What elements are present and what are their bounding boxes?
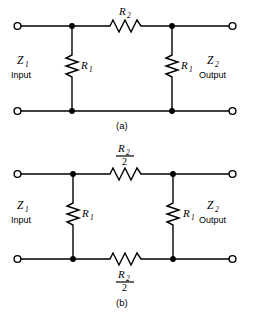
shunt-resistor-left-a-label-subscript: 1 — [89, 65, 93, 74]
node-dot-bottom-right-a — [169, 108, 175, 114]
input-impedance-symbol-b: Z — [17, 199, 24, 211]
shunt-resistor-right-a-label: R — [180, 59, 188, 71]
shunt-resistor-right-a-symbol — [166, 55, 178, 77]
panel-a: R 2 R 1 R 1 Z 1 Input Z 2 Output (a) — [11, 5, 236, 131]
terminal-input-top-b[interactable] — [14, 171, 21, 178]
series-resistor-top-b-denominator: 2 — [122, 156, 127, 167]
node-dot-top-left-b — [70, 171, 76, 177]
shunt-resistor-right-b-label-subscript: 1 — [191, 213, 195, 222]
series-resistor-top-a-label-subscript: 2 — [127, 11, 131, 20]
input-impedance-subscript-a: 1 — [25, 60, 29, 69]
output-impedance-subscript-a: 2 — [215, 60, 219, 69]
input-role-label-a: Input — [11, 70, 32, 80]
series-resistor-top-b-symbol — [110, 168, 141, 180]
input-impedance-symbol-a: Z — [17, 54, 24, 66]
panel-b: R 2 2 R 2 2 R 1 R 1 Z 1 Input Z — [11, 142, 236, 308]
terminal-output-top-a[interactable] — [229, 23, 236, 30]
output-impedance-subscript-b: 2 — [215, 205, 219, 214]
shunt-resistor-left-b-label: R — [81, 207, 89, 219]
series-resistor-top-a-symbol — [110, 20, 141, 32]
node-dot-bottom-left-b — [70, 256, 76, 262]
terminal-input-bottom-b[interactable] — [14, 256, 21, 263]
shunt-resistor-right-a-label-subscript: 1 — [189, 65, 193, 74]
panel-caption-b: (b) — [116, 297, 128, 308]
series-resistor-bottom-b-denominator: 2 — [122, 282, 127, 293]
shunt-resistor-right-b-label: R — [182, 207, 190, 219]
series-resistor-bottom-b-symbol — [110, 253, 141, 265]
circuit-diagram-canvas: R 2 R 1 R 1 Z 1 Input Z 2 Output (a) — [0, 0, 258, 318]
node-dot-top-left-a — [69, 23, 75, 29]
series-resistor-top-b-label-fraction: R 2 2 — [116, 142, 134, 167]
node-dot-bottom-right-b — [170, 256, 176, 262]
output-role-label-a: Output — [199, 70, 227, 80]
panel-caption-a: (a) — [116, 120, 128, 131]
terminal-output-bottom-a[interactable] — [229, 108, 236, 115]
shunt-resistor-right-b-symbol — [167, 203, 179, 225]
series-resistor-bottom-b-numerator-symbol: R — [117, 268, 125, 280]
shunt-resistor-left-a-symbol — [66, 55, 78, 77]
node-dot-top-right-a — [169, 23, 175, 29]
shunt-resistor-left-a-label: R — [80, 59, 88, 71]
terminal-output-bottom-b[interactable] — [229, 256, 236, 263]
output-role-label-b: Output — [199, 215, 227, 225]
output-impedance-symbol-b: Z — [207, 199, 214, 211]
series-resistor-bottom-b-label-fraction: R 2 2 — [116, 268, 134, 293]
shunt-resistor-left-b-symbol — [67, 203, 79, 225]
series-resistor-top-b-numerator-symbol: R — [117, 142, 125, 154]
input-impedance-subscript-b: 1 — [25, 205, 29, 214]
series-resistor-top-a-label: R — [118, 5, 126, 17]
terminal-output-top-b[interactable] — [229, 171, 236, 178]
input-role-label-b: Input — [11, 215, 32, 225]
terminal-input-bottom-a[interactable] — [14, 108, 21, 115]
node-dot-bottom-left-a — [69, 108, 75, 114]
output-impedance-symbol-a: Z — [207, 54, 214, 66]
terminal-input-top-a[interactable] — [14, 23, 21, 30]
circuit-figure: R 2 R 1 R 1 Z 1 Input Z 2 Output (a) — [0, 0, 258, 318]
shunt-resistor-left-b-label-subscript: 1 — [90, 213, 94, 222]
node-dot-top-right-b — [170, 171, 176, 177]
